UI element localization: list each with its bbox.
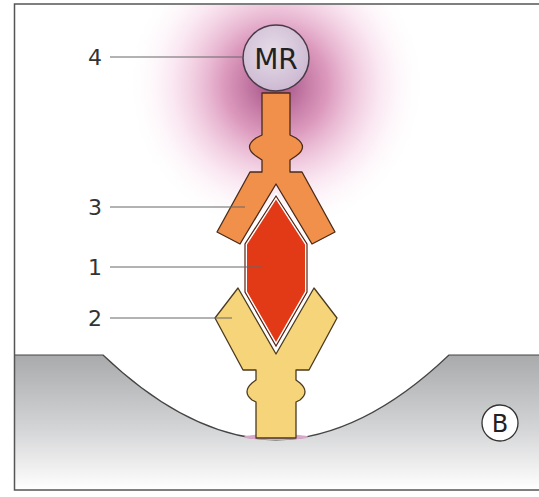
mr-label: MR	[254, 43, 298, 76]
callout-2: 2	[88, 306, 102, 331]
callout-3: 3	[88, 195, 102, 220]
diagram-canvas: MR 4 3 1 2 B	[0, 0, 539, 497]
callout-4: 4	[88, 45, 102, 70]
callout-1: 1	[88, 255, 102, 280]
panel-label: B	[492, 410, 508, 438]
